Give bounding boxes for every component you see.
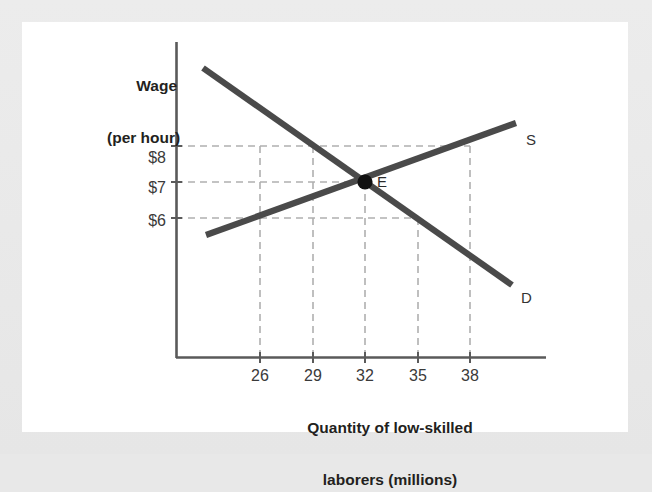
demand-curve xyxy=(203,68,512,285)
x-axis-title: Quantity of low-skilled laborers (millio… xyxy=(220,384,560,492)
demand-curve-label: D xyxy=(521,290,532,307)
x-tick-label-26: 26 xyxy=(240,367,280,385)
x-tick-label-29: 29 xyxy=(293,367,333,385)
figure-panel: Wage (per hour) $8 $7 $6 26 29 32 35 38 … xyxy=(22,22,628,432)
equilibrium-point-label: E xyxy=(377,174,387,191)
y-tick-label-8: $8 xyxy=(114,149,166,167)
y-tick-label-7: $7 xyxy=(114,179,166,197)
y-tick-label-6: $6 xyxy=(114,212,166,230)
y-axis-title-line2: (per hour) xyxy=(107,129,177,146)
x-tick-label-35: 35 xyxy=(398,367,438,385)
supply-curve-label: S xyxy=(526,132,536,149)
x-tick-label-38: 38 xyxy=(450,367,490,385)
y-axis-title-line1: Wage xyxy=(107,77,177,94)
x-axis-title-line2: laborers (millions) xyxy=(220,471,560,488)
x-tick-label-32: 32 xyxy=(345,367,385,385)
x-axis-title-line1: Quantity of low-skilled xyxy=(220,419,560,436)
equilibrium-point-marker xyxy=(357,174,372,189)
